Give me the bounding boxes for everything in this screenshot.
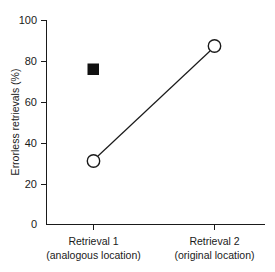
y-tick-label-40: 40: [25, 137, 37, 149]
y-tick-label-100: 100: [19, 14, 37, 26]
x-category-label-2-line2: (original location): [175, 249, 255, 261]
y-tick-label-80: 80: [25, 55, 37, 67]
y-tick-label-60: 60: [25, 96, 37, 108]
line-chart-plot: 100 80 60 40 20 0 Errorless retrievals (…: [0, 0, 275, 272]
x-category-label-1-line1: Retrieval 1: [68, 235, 118, 247]
series-connector-line: [98, 51, 210, 156]
chart-figure: 100 80 60 40 20 0 Errorless retrievals (…: [0, 0, 275, 272]
y-axis-title: Errorless retrievals (%): [9, 69, 21, 176]
y-tick-label-0: 0: [31, 218, 37, 230]
x-category-label-1-line2: (analogous location): [46, 249, 141, 261]
data-point-open-circle-retrieval-2: [208, 40, 220, 52]
y-tick-label-20: 20: [25, 178, 37, 190]
data-point-filled-square-retrieval-1: [88, 64, 99, 75]
x-category-label-2-line1: Retrieval 2: [189, 235, 239, 247]
data-point-open-circle-retrieval-1: [87, 155, 99, 167]
